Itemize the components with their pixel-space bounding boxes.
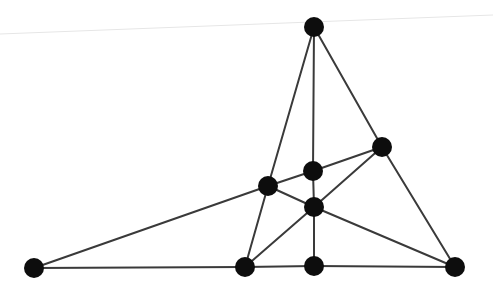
edge-E-B — [314, 147, 382, 207]
node-H — [304, 256, 324, 276]
scan-artifact-line — [0, 15, 493, 34]
edge-C-B — [313, 147, 382, 171]
edge-G-H — [245, 266, 314, 267]
edge-A-D — [268, 27, 314, 186]
nodes-group — [24, 17, 465, 278]
node-D — [258, 176, 278, 196]
node-C — [303, 161, 323, 181]
edge-A-B — [314, 27, 382, 147]
node-G — [235, 257, 255, 277]
node-I — [445, 257, 465, 277]
graph-diagram — [0, 0, 493, 298]
node-A — [304, 17, 324, 37]
node-B — [372, 137, 392, 157]
node-F — [24, 258, 44, 278]
edge-F-G — [34, 267, 245, 268]
edge-A-C — [313, 27, 314, 171]
edge-F-D — [34, 186, 268, 268]
node-E — [304, 197, 324, 217]
edge-E-I — [314, 207, 455, 267]
edge-B-I — [382, 147, 455, 267]
edge-G-E — [245, 207, 314, 267]
edge-D-G — [245, 186, 268, 267]
edge-H-I — [314, 266, 455, 267]
